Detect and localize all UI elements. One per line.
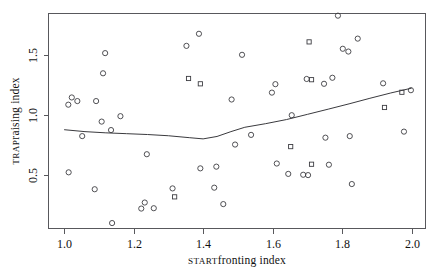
x-tick-label: 1.8 xyxy=(335,237,350,251)
y-tick-label: 0.5 xyxy=(26,168,40,183)
x-axis-title-group: START fronting index xyxy=(188,254,286,267)
x-tick-label: 1.4 xyxy=(196,237,211,251)
y-axis-title-smallcaps: TRAP xyxy=(11,140,21,165)
scatter-plot-figure: 1.01.21.41.61.82.0 0.51.01.5 START front… xyxy=(0,0,441,276)
x-tick-label: 1.0 xyxy=(57,237,72,251)
x-tick-label: 1.6 xyxy=(266,237,281,251)
x-tick-label: 2.0 xyxy=(405,237,420,251)
plot-canvas: 1.01.21.41.61.82.0 0.51.01.5 START front… xyxy=(0,0,441,276)
y-axis-title-text: raising index xyxy=(9,77,22,139)
x-axis-title-smallcaps: START xyxy=(188,256,218,266)
y-axis-title-group: TRAP raising index xyxy=(9,77,22,164)
y-tick-label: 1.0 xyxy=(26,108,40,123)
y-tick-label: 1.5 xyxy=(26,48,40,63)
figure-background xyxy=(0,0,441,276)
x-tick-label: 1.2 xyxy=(127,237,142,251)
x-axis-title-text: fronting index xyxy=(218,254,286,267)
